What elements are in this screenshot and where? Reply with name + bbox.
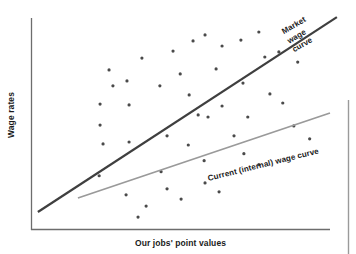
scatter-point [220,44,223,47]
scatter-point [203,33,206,36]
scatter-point [179,72,182,75]
scatter-point [187,143,190,146]
scatter-point [257,30,260,33]
scatter-point [180,197,183,200]
scatter-point [246,115,249,118]
scatter-point [136,215,139,218]
scatter-point [203,181,206,184]
scatter-point [111,84,114,87]
scatter-point [171,49,174,52]
scatter-point [124,193,127,196]
scatter-point [101,142,104,145]
scatter-point [242,152,245,155]
scatter-point [268,92,271,95]
scatter-point [127,103,130,106]
scatter-point [158,84,161,87]
scatter-point [165,134,168,137]
scatter-point [191,39,194,42]
scatter-point [98,123,101,126]
scatter-point [239,38,242,41]
scatter-point [281,101,284,104]
scatter-point [220,104,223,107]
scatter-point [217,190,220,193]
scatter-point [98,102,101,105]
scatter-point [206,115,209,118]
x-axis-title: Our jobs' point values [31,238,330,248]
scatter-point [263,55,266,58]
scatter-point [214,67,217,70]
scatter-point [127,140,130,143]
scatter-point [188,93,191,96]
y-axis-title: Wage rates [6,85,16,145]
scatter-point [241,81,244,84]
scatter-point [308,137,311,140]
scatter-point [125,79,128,82]
wage-curve-chart: Wage rates Our jobs' point values Market… [0,0,356,254]
scatter-point [165,187,168,190]
scatter-point [140,56,143,59]
scatter-point [145,204,148,207]
scatter-point [107,68,110,71]
scatter-point [197,113,200,116]
scatter-point [203,159,206,162]
scatter-point [296,61,299,64]
scatter-point [98,174,101,177]
scatter-point [232,134,235,137]
scatter-points [98,30,312,218]
